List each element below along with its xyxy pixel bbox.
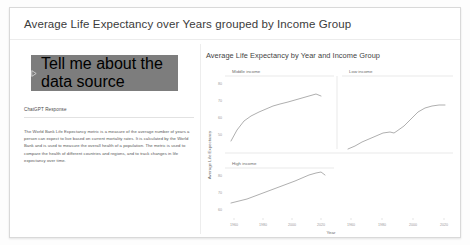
response-divider — [24, 117, 194, 118]
response-heading: ChatGPT Response — [24, 107, 67, 112]
facet-label-low-income: Low income — [349, 69, 373, 74]
life-expectancy-facet-chart: Average Life Expectancy Year Middle inco… — [201, 63, 461, 237]
y-axis-title: Average Life Expectancy — [207, 130, 212, 179]
x-axis-title: Year — [327, 230, 336, 235]
facet-label-high-income: High income — [232, 161, 257, 166]
facet-label-middle-income: Middle income — [232, 69, 261, 74]
x-tick-label: 1960 — [230, 223, 238, 227]
facet-low-income: Low income — [342, 69, 453, 149]
prompt-button-label: Tell me about the data source — [41, 55, 178, 91]
y-tick-label: 60 — [218, 116, 222, 120]
chart-panel: Average Life Expectancy by Year and Inco… — [201, 41, 461, 237]
y-tick-label: 50 — [218, 133, 222, 137]
y-tick-label: 80 — [218, 82, 222, 86]
x-axis-right: 1960 1980 2000 2020 — [347, 218, 448, 227]
y-tick-label: 70 — [218, 99, 222, 103]
series-line-high-income — [231, 172, 325, 203]
x-tick-label: 2000 — [409, 223, 417, 227]
dashboard-screenshot: Average Life Expectancy over Years group… — [0, 0, 470, 245]
facet-middle-income: Middle income 80 70 60 50 — [218, 69, 334, 141]
response-body: The World Bank Life Expectancy metric is… — [24, 128, 196, 164]
page-title: Average Life Expectancy over Years group… — [24, 18, 351, 30]
prompt-button[interactable]: Tell me about the data source — [31, 55, 178, 91]
x-tick-label: 1980 — [259, 223, 267, 227]
title-divider — [10, 39, 460, 40]
series-line-middle-income — [231, 94, 321, 141]
x-axis-left: 1960 1980 2000 2020 — [230, 218, 325, 227]
x-tick-label: 2020 — [440, 223, 448, 227]
play-icon — [31, 70, 37, 77]
x-tick-label: 1960 — [347, 223, 355, 227]
y-tick-label: 70 — [218, 191, 222, 195]
chart-title: Average Life Expectancy by Year and Inco… — [206, 51, 380, 60]
dashboard-card: Average Life Expectancy over Years group… — [9, 7, 461, 238]
x-tick-label: 2000 — [288, 223, 296, 227]
y-tick-label: 80 — [218, 174, 222, 178]
series-line-low-income — [348, 105, 445, 149]
y-tick-label: 60 — [218, 208, 222, 212]
x-tick-label: 1980 — [378, 223, 386, 227]
x-tick-label: 2020 — [317, 223, 325, 227]
facet-high-income: High income 80 70 60 — [218, 161, 334, 212]
left-panel: Tell me about the data source ChatGPT Re… — [15, 41, 200, 237]
